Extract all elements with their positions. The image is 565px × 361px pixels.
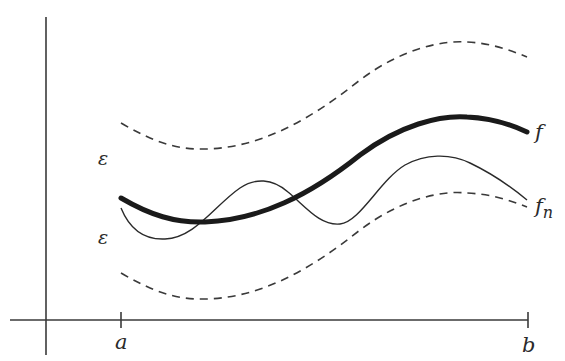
lower-band-curve: [121, 192, 527, 299]
upper-band-curve: [121, 42, 527, 149]
b-label: b: [522, 333, 535, 357]
f-label: f: [533, 120, 546, 144]
fn-label: fn: [533, 194, 553, 222]
a-label: a: [115, 330, 128, 354]
fn-curve: [121, 156, 527, 239]
uniform-convergence-diagram: ε ε f fn a b: [0, 0, 565, 361]
f-curve: [121, 117, 527, 222]
epsilon-upper-label: ε: [98, 147, 108, 169]
fn-label-subscript: n: [543, 203, 553, 222]
epsilon-lower-label: ε: [98, 226, 108, 248]
